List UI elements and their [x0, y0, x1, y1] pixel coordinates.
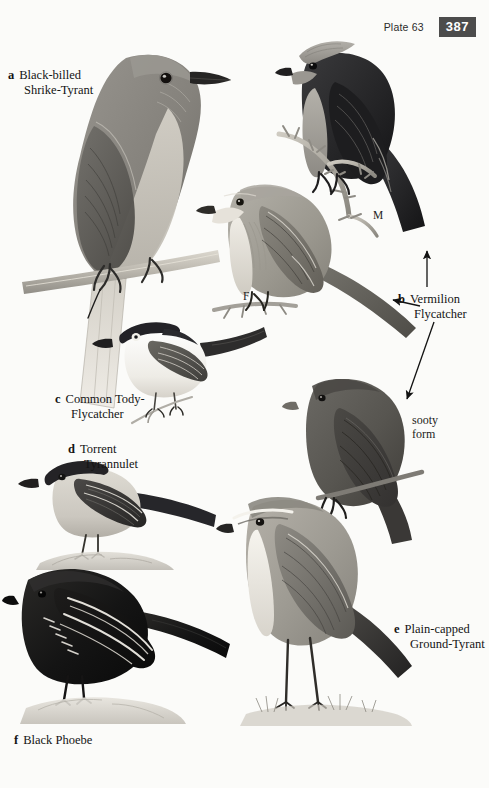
caption-key-a: a	[8, 68, 14, 82]
caption-name-d-line2: Tyrannulet	[68, 457, 138, 472]
caption-key-b: b	[398, 292, 405, 306]
caption-key-f: f	[14, 733, 18, 747]
caption-name-a-line1: Black-billed	[19, 68, 81, 83]
sooty-form-line1: sooty	[412, 413, 438, 427]
caption-key-c: c	[55, 392, 61, 406]
caption-a: aBlack-billed Shrike-Tyrant	[8, 68, 93, 97]
caption-b: bVermilion Flycatcher	[398, 292, 467, 321]
caption-key-e: e	[394, 622, 400, 636]
caption-name-b-line1: Vermilion	[410, 292, 460, 307]
caption-c: cCommon Tody- Flycatcher	[55, 392, 145, 421]
caption-name-a-line2: Shrike-Tyrant	[8, 83, 93, 98]
caption-name-c-line2: Flycatcher	[55, 407, 145, 422]
caption-name-e-line2: Ground-Tyrant	[394, 637, 485, 652]
caption-name-b-line2: Flycatcher	[398, 307, 467, 322]
arrow-diagonal-to-sooty	[407, 322, 434, 399]
caption-d: dTorrent Tyrannulet	[68, 442, 138, 471]
caption-name-e-line1: Plain-capped	[405, 622, 470, 637]
caption-f: fBlack Phoebe	[14, 733, 92, 748]
caption-name-d-line1: Torrent	[80, 442, 117, 457]
sooty-form-line2: form	[412, 427, 438, 441]
caption-name-c-line1: Common Tody-	[66, 392, 145, 407]
field-guide-plate-page: Plate 63 387	[0, 0, 489, 788]
caption-name-f-line1: Black Phoebe	[23, 733, 92, 748]
caption-e: ePlain-capped Ground-Tyrant	[394, 622, 485, 651]
sooty-form-annotation: sooty form	[412, 413, 438, 441]
caption-key-d: d	[68, 442, 75, 456]
